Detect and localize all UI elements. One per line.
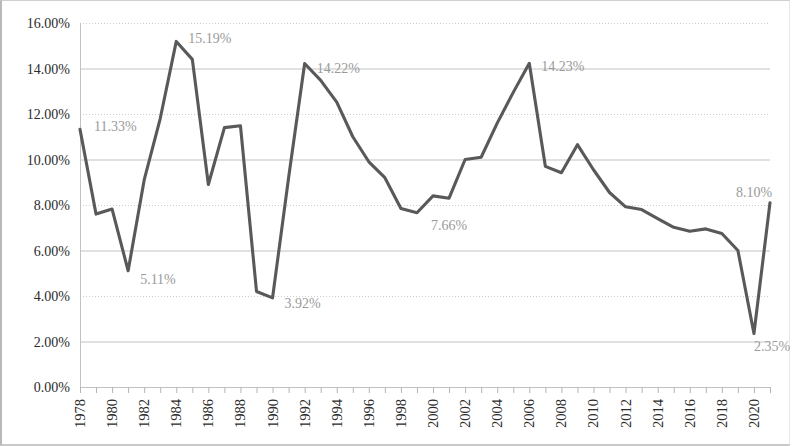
data-point-label: 5.11% [140,272,176,287]
x-axis-tick-label: 1990 [265,399,281,428]
x-axis-tick-label: 1998 [393,399,409,428]
x-axis-tick-label: 2016 [682,399,698,428]
data-point-label: 14.22% [317,61,361,76]
x-axis-tick-label: 1986 [200,399,216,428]
x-axis-tick-label: 2018 [714,399,730,428]
x-axis-tick-label: 1978 [72,399,88,428]
data-point-label: 2.35% [754,339,791,354]
x-axis-tick-label: 1994 [329,398,345,428]
x-axis-tick-label: 2014 [650,398,666,428]
x-axis-tick-label: 1982 [136,399,152,428]
y-axis-tick-label: 12.00% [27,107,71,122]
x-axis-tick-label: 1984 [168,398,184,428]
data-point-label: 8.10% [736,185,773,200]
data-point-label: 3.92% [285,296,322,311]
y-axis-tick-label: 16.00% [27,16,71,31]
x-axis-tick-label: 1980 [104,399,120,428]
x-axis-tick-label: 2002 [457,399,473,428]
x-axis-tick-label: 1996 [361,399,377,428]
y-axis-tick-label: 6.00% [34,244,71,259]
y-axis-tick-label: 0.00% [34,380,71,395]
data-series-line [80,41,770,333]
y-axis-tick-label: 2.00% [34,335,71,350]
x-axis-tick-label: 2010 [585,399,601,428]
x-axis-tick-label: 2004 [489,398,505,428]
y-axis-tick-label: 14.00% [27,62,71,77]
x-axis-tick-label: 1992 [297,399,313,428]
y-axis-tick-label: 10.00% [27,153,71,168]
line-chart: 0.00%2.00%4.00%6.00%8.00%10.00%12.00%14.… [2,1,792,446]
data-point-label: 7.66% [431,218,468,233]
x-axis-tick-label: 1988 [232,399,248,428]
y-axis-tick-label: 4.00% [34,289,71,304]
x-axis-tick-label: 2020 [746,399,762,428]
data-point-label: 15.19% [188,31,232,46]
y-axis-tick-label: 8.00% [34,198,71,213]
x-axis-tick-label: 2000 [425,399,441,428]
data-point-label: 14.23% [541,59,585,74]
x-axis-tick-label: 2008 [553,399,569,428]
x-axis-tick-label: 2012 [618,399,634,428]
data-point-label: 11.33% [94,119,137,134]
x-axis-tick-label: 2006 [521,399,537,428]
